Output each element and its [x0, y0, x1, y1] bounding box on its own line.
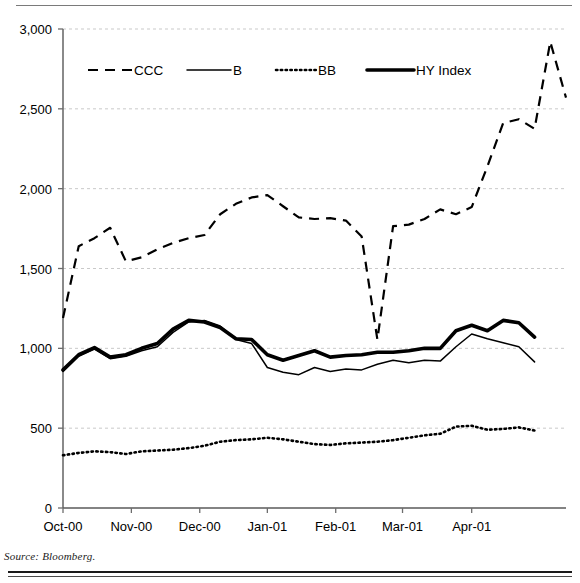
legend-label-b: B [233, 63, 242, 78]
legend-label-bb: BB [318, 63, 336, 78]
line-chart: 05001,0001,5002,0002,5003,000 Oct-00Nov-… [0, 0, 580, 583]
legend-label-hy-index: HY Index [416, 63, 472, 78]
y-tick-label: 1,500 [19, 262, 52, 277]
series-line-hy-index [63, 320, 535, 370]
bottom-divider-rule-thick [8, 571, 572, 573]
y-tick-label: 2,500 [19, 102, 52, 117]
legend-label-ccc: CCC [134, 63, 163, 78]
y-tick-label: 2,000 [19, 182, 52, 197]
y-axis-tick-labels: 05001,0001,5002,0002,5003,000 [19, 22, 52, 516]
x-tick-label: Dec-00 [179, 519, 221, 534]
x-tick-label: Apr-01 [452, 519, 491, 534]
x-tick-label: Feb-01 [315, 519, 356, 534]
y-tick-label: 3,000 [19, 22, 52, 37]
x-tick-label: Mar-01 [382, 519, 423, 534]
series-line-bb [63, 426, 535, 456]
series-line-ccc [63, 42, 566, 340]
y-tick-label: 500 [30, 421, 52, 436]
x-tick-label: Nov-00 [110, 519, 152, 534]
figure-container: 05001,0001,5002,0002,5003,000 Oct-00Nov-… [0, 0, 580, 583]
y-tick-label: 1,000 [19, 341, 52, 356]
x-tick-label: Oct-00 [43, 519, 82, 534]
y-tick-label: 0 [45, 501, 52, 516]
chart-legend: CCCBBBHY Index [88, 63, 472, 78]
axes-group [58, 29, 566, 513]
bottom-divider-rule-thin [8, 576, 572, 577]
x-tick-label: Jan-01 [247, 519, 287, 534]
source-note: Source: Bloomberg. [4, 550, 95, 562]
data-series-group [63, 42, 566, 456]
x-axis-tick-labels: Oct-00Nov-00Dec-00Jan-01Feb-01Mar-01Apr-… [43, 519, 491, 534]
